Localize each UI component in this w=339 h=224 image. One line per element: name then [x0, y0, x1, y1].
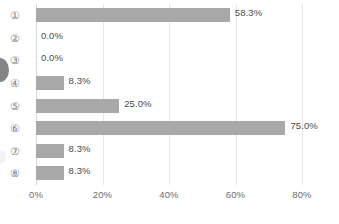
- category-label: ⑥: [0, 117, 30, 140]
- bar-row[interactable]: 8.3%: [36, 140, 302, 163]
- bar-row[interactable]: 0.0%: [36, 49, 302, 72]
- bar-row[interactable]: 0.0%: [36, 27, 302, 50]
- category-label: ⑧: [0, 162, 30, 185]
- bar-row[interactable]: 8.3%: [36, 162, 302, 185]
- bar-value-label: 0.0%: [41, 52, 63, 63]
- bar[interactable]: [36, 99, 119, 113]
- bar-value-label: 0.0%: [41, 30, 63, 41]
- bar-value-label: 25.0%: [124, 98, 151, 109]
- bar-rows: 58.3%0.0%0.0%8.3%25.0%75.0%8.3%8.3%: [36, 4, 302, 185]
- bar-value-label: 8.3%: [69, 165, 91, 176]
- x-axis-tick-labels: 0%20%40%60%80%: [36, 189, 302, 209]
- bar-value-label: 8.3%: [69, 75, 91, 86]
- bar[interactable]: [36, 76, 64, 90]
- x-tick-label: 20%: [93, 189, 112, 200]
- plot-area: 58.3%0.0%0.0%8.3%25.0%75.0%8.3%8.3%: [36, 4, 302, 185]
- bar-value-label: 8.3%: [69, 143, 91, 154]
- x-tick-label: 80%: [292, 189, 311, 200]
- category-label: ⑤: [0, 95, 30, 118]
- bar[interactable]: [36, 166, 64, 180]
- bar-row[interactable]: 75.0%: [36, 117, 302, 140]
- bar[interactable]: [36, 144, 64, 158]
- category-label: ②: [0, 27, 30, 50]
- gridline-80pct: [302, 4, 303, 185]
- bar-row[interactable]: 58.3%: [36, 4, 302, 27]
- bar-row[interactable]: 8.3%: [36, 72, 302, 95]
- x-tick-label: 0%: [29, 189, 43, 200]
- x-tick-label: 40%: [159, 189, 178, 200]
- bar-chart: ①②③④⑤⑥⑦⑧ 58.3%0.0%0.0%8.3%25.0%75.0%8.3%…: [0, 0, 339, 224]
- category-label: ④: [0, 72, 30, 95]
- x-tick-label: 60%: [226, 189, 245, 200]
- bar-value-label: 75.0%: [290, 120, 317, 131]
- category-label: ⑦: [0, 140, 30, 163]
- bar-value-label: 58.3%: [235, 7, 262, 18]
- bar[interactable]: [36, 8, 230, 22]
- category-axis-labels: ①②③④⑤⑥⑦⑧: [0, 4, 36, 185]
- bar[interactable]: [36, 121, 285, 135]
- bar-row[interactable]: 25.0%: [36, 95, 302, 118]
- category-label: ①: [0, 4, 30, 27]
- category-label: ③: [0, 49, 30, 72]
